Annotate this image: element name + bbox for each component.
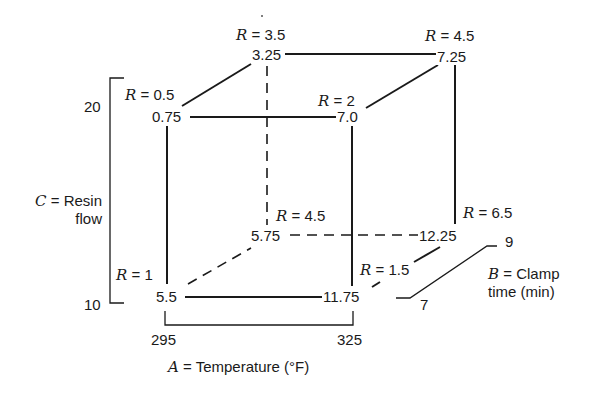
stray-dot [261, 15, 263, 17]
a-axis-high: 325 [337, 331, 362, 348]
r-label-front-bottom-right: R = 1.5 [360, 261, 409, 279]
c-axis-low: 10 [84, 296, 101, 313]
value-back-bottom-left: 5.75 [250, 227, 281, 244]
r-label-back-bottom-left: R = 4.5 [276, 207, 325, 225]
r-label-front-bottom-left: R = 1 [116, 266, 153, 284]
edge-top-left-depth [182, 64, 251, 106]
r-label-back-top-left: R = 3.5 [236, 26, 285, 44]
b-axis-bracket [396, 246, 497, 298]
b-axis-high: 9 [505, 233, 513, 250]
value-front-bottom-right: 11.75 [322, 288, 360, 305]
value-front-top-right: 7.0 [336, 108, 359, 125]
edge-bottom-right-depth [414, 247, 440, 262]
value-back-top-left: 3.25 [251, 46, 282, 63]
value-front-top-left: 0.75 [151, 108, 182, 125]
a-axis-bracket [165, 311, 353, 325]
b-axis-low: 7 [420, 296, 428, 313]
r-label-back-top-right: R = 4.5 [425, 27, 474, 45]
a-axis-low: 295 [151, 331, 176, 348]
b-axis-label: B = Clamp time (min) [488, 265, 559, 300]
r-label-back-bottom-right: R = 6.5 [463, 204, 512, 222]
value-front-bottom-left: 5.5 [155, 288, 178, 305]
edge-bottom-left-depth-hidden [188, 248, 251, 284]
a-axis-label: A = Temperature (°F) [168, 358, 309, 376]
r-label-front-top-left: R = 0.5 [125, 86, 174, 104]
value-back-top-right: 7.25 [436, 48, 467, 65]
edge-top-right-depth [366, 65, 438, 108]
value-back-bottom-right: 12.25 [418, 227, 458, 244]
c-axis-label: C = Resin flow [14, 192, 102, 227]
c-axis-high: 20 [84, 98, 101, 115]
edge-bottom-right-depth-tick [372, 282, 380, 287]
